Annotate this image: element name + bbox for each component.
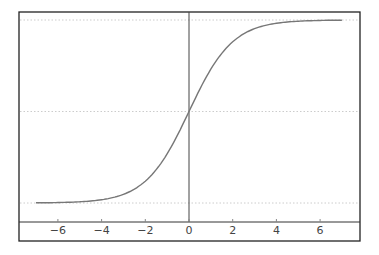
x-tick-label: −2 [137, 224, 153, 237]
x-tick-label: 6 [317, 224, 324, 237]
x-tick-label: −4 [93, 224, 109, 237]
x-tick-label: 2 [229, 224, 236, 237]
x-tick-label: 4 [273, 224, 280, 237]
sigmoid-chart [0, 0, 379, 255]
x-tick-label: −6 [50, 224, 66, 237]
x-tick-label: 0 [186, 224, 193, 237]
